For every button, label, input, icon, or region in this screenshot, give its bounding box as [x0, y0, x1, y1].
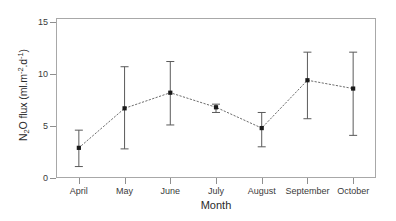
y-axis-title-lead: N: [17, 133, 29, 140]
y-axis-title-sup-minus1: -1: [16, 52, 25, 58]
y-tick-15: [50, 22, 56, 23]
x-tick-july: [216, 178, 217, 184]
y-tick-label-text: 10: [12, 70, 48, 79]
x-tick-may: [125, 178, 126, 184]
chart-figure: N2O flux (ml.m-2.d-1) 051015 AprilMayJun…: [0, 0, 396, 221]
x-axis-title: Month: [56, 199, 376, 212]
x-tick-october: [353, 178, 354, 184]
y-tick-label-5: 5: [8, 122, 48, 131]
y-tick-5: [50, 126, 56, 127]
x-tick-september: [307, 178, 308, 184]
y-tick-label-15: 15: [8, 18, 48, 27]
y-tick-0: [50, 178, 56, 179]
x-tick-june: [170, 178, 171, 184]
y-axis-title: N2O flux (ml.m-2.d-1): [14, 10, 28, 180]
y-tick-label-text: 5: [12, 122, 48, 131]
plot-area-frame: [56, 18, 376, 178]
x-tick-label-october: October: [318, 186, 388, 197]
y-tick-label-0: 0: [8, 174, 48, 183]
y-tick-label-text: 0: [12, 174, 48, 183]
y-tick-label-10: 10: [8, 70, 48, 79]
x-tick-april: [79, 178, 80, 184]
y-tick-label-text: 15: [12, 18, 48, 27]
y-axis-title-tail: ): [17, 49, 29, 52]
y-axis-title-mid2: .d: [17, 59, 29, 68]
y-tick-10: [50, 74, 56, 75]
x-tick-august: [262, 178, 263, 184]
